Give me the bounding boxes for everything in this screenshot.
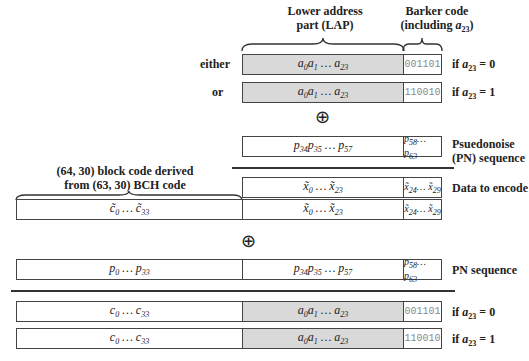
pn-full-label: PN sequence bbox=[452, 263, 517, 277]
bottom-condition-row1: if a23 = 0 bbox=[452, 305, 495, 321]
barker-field-row2: 110010 bbox=[403, 82, 442, 103]
lap-brace bbox=[242, 38, 404, 52]
bottom-barker-field-row1: 001101 bbox=[403, 301, 442, 322]
codeword-left-field: c̃0 … c̃33 bbox=[16, 199, 243, 220]
lap-field-row2: a0a1 … a23 bbox=[242, 82, 404, 103]
condition-row1: if a23 = 0 bbox=[452, 57, 495, 73]
divider-bottom bbox=[11, 290, 455, 292]
bottom-c-field-row2: c0 … c33 bbox=[16, 328, 243, 349]
bottom-c-field-row1: c0 … c33 bbox=[16, 301, 243, 322]
either-label: either bbox=[200, 57, 230, 71]
bottom-lap-field-row2: a0a1 … a23 bbox=[242, 328, 404, 349]
divider-top bbox=[232, 167, 454, 169]
block-code-label: (64, 30) block code derivedfrom (63, 30)… bbox=[40, 164, 210, 192]
pn-partial-label: Psuedonoise(PN) sequence bbox=[452, 137, 525, 165]
pn-mid-field: p34p35 … p57 bbox=[242, 136, 404, 157]
barker-field-row1: 001101 bbox=[403, 54, 442, 75]
barker-header: Barker code(including a23) bbox=[392, 4, 482, 37]
pn-full-mid-field: p34p35 … p57 bbox=[242, 259, 404, 280]
condition-row2: if a23 = 1 bbox=[452, 85, 495, 101]
or-label: or bbox=[212, 85, 223, 99]
data-mid-field: x̃0 … x̃23 bbox=[242, 177, 404, 198]
lap-header: Lower addresspart (LAP) bbox=[270, 4, 380, 32]
bottom-barker-field-row2: 110010 bbox=[403, 328, 442, 349]
codeword-right-field: x̃24… x̃29 bbox=[403, 199, 442, 220]
barker-brace bbox=[403, 38, 442, 52]
pn-right-field: p58… p63 bbox=[403, 136, 442, 157]
pn-full-right-field: p58… p63 bbox=[403, 259, 442, 280]
data-right-field: x̃24… x̃29 bbox=[403, 177, 442, 198]
bottom-condition-row2: if a23 = 1 bbox=[452, 332, 495, 348]
data-to-encode-label: Data to encode bbox=[452, 181, 528, 195]
pn-full-left-field: p0 … p33 bbox=[16, 259, 243, 280]
lap-field-row1: a0a1 … a23 bbox=[242, 54, 404, 75]
xor-symbol-top: ⊕ bbox=[315, 108, 330, 126]
codeword-mid-field: x̃0 … x̃23 bbox=[242, 199, 404, 220]
bottom-lap-field-row1: a0a1 … a23 bbox=[242, 301, 404, 322]
xor-symbol-bottom: ⊕ bbox=[241, 232, 256, 250]
